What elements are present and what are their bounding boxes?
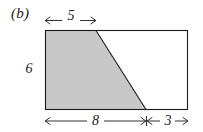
dimension-label-bottom-8: 8 xyxy=(44,114,147,128)
dimension-label-top-5: 5 xyxy=(44,9,98,23)
geometry-figure: (b) 5 xyxy=(0,0,203,132)
dimension-label-bottom-3: 3 xyxy=(147,114,189,128)
shaded-trapezoid xyxy=(46,31,147,110)
dimension-label-left-6: 6 xyxy=(21,62,37,76)
